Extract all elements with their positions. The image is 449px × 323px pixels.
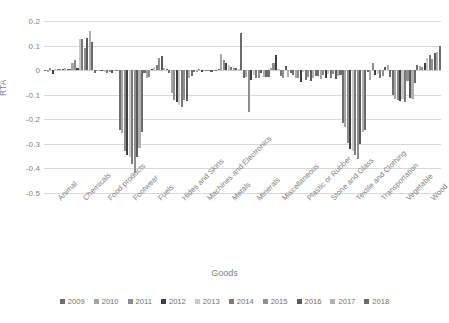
- bar-slot: [439, 21, 441, 193]
- legend-label: 2011: [136, 298, 152, 306]
- legend-label: 2009: [68, 298, 85, 306]
- legend-item[interactable]: 2014: [229, 298, 254, 306]
- y-tick-label: 0: [0, 66, 40, 75]
- y-tick-label: -0.2: [0, 115, 40, 124]
- legend-label: 2016: [305, 298, 322, 306]
- legend-item[interactable]: 2012: [161, 298, 186, 306]
- legend-item[interactable]: 2016: [297, 298, 322, 306]
- legend-swatch-icon: [364, 299, 369, 304]
- y-tick-label: -0.1: [0, 90, 40, 99]
- legend-label: 2012: [169, 298, 186, 306]
- bar-group: [94, 21, 119, 193]
- legend-swatch-icon: [330, 299, 335, 304]
- legend-item[interactable]: 2011: [128, 298, 152, 306]
- legend-swatch-icon: [94, 299, 99, 304]
- bar: [439, 46, 441, 70]
- y-tick-label: 0.2: [0, 17, 40, 26]
- x-axis-tick-labels: AnimalChemicalsFood productsFootwearFuel…: [44, 196, 441, 268]
- legend-swatch-icon: [297, 299, 302, 304]
- bar-group: [69, 21, 94, 193]
- y-tick-label: -0.5: [0, 189, 40, 198]
- legend-item[interactable]: 2009: [60, 298, 85, 306]
- x-axis-title: Goods: [0, 268, 449, 278]
- legend-label: 2015: [271, 298, 288, 306]
- y-tick-label: -0.4: [0, 164, 40, 173]
- legend-label: 2018: [372, 298, 389, 306]
- y-tick-label: 0.1: [0, 41, 40, 50]
- legend-item[interactable]: 2015: [263, 298, 288, 306]
- legend-label: 2013: [203, 298, 220, 306]
- y-axis-tick-labels: 0.20.10-0.1-0.2-0.3-0.4-0.5: [0, 21, 44, 193]
- bar-group: [168, 21, 193, 193]
- legend-label: 2010: [102, 298, 119, 306]
- legend-item[interactable]: 2017: [330, 298, 355, 306]
- legend-item[interactable]: 2013: [195, 298, 220, 306]
- rta-bar-chart: RTA 0.20.10-0.1-0.2-0.3-0.4-0.5 AnimalCh…: [0, 0, 449, 323]
- legend-swatch-icon: [60, 299, 65, 304]
- legend-swatch-icon: [229, 299, 234, 304]
- legend-swatch-icon: [161, 299, 166, 304]
- y-tick-label: -0.3: [0, 139, 40, 148]
- legend-swatch-icon: [263, 299, 268, 304]
- legend-item[interactable]: 2010: [94, 298, 119, 306]
- legend-swatch-icon: [195, 299, 200, 304]
- legend-item[interactable]: 2018: [364, 298, 389, 306]
- legend-label: 2017: [338, 298, 355, 306]
- legend-label: 2014: [237, 298, 254, 306]
- bar-group: [267, 21, 292, 193]
- chart-legend: 2009201020112012201320142015201620172018: [0, 298, 449, 306]
- legend-swatch-icon: [128, 299, 133, 304]
- bar-group: [44, 21, 69, 193]
